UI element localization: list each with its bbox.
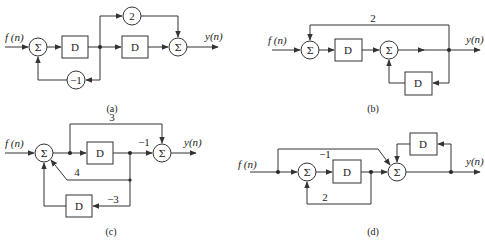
- sigma-symbol: Σ: [306, 45, 313, 56]
- delay-label: D: [131, 41, 139, 53]
- delay-label: D: [75, 200, 83, 212]
- sigma-symbol: Σ: [303, 167, 310, 178]
- connector: [100, 16, 122, 47]
- gain-label: 2: [370, 12, 376, 24]
- gain-label: −1: [138, 136, 150, 148]
- delay-label: D: [71, 41, 79, 53]
- input-label-c: f (n): [5, 137, 24, 150]
- diagram-c: f (n) Σ D −1 Σ y(n) 3 4 −3 D (c): [5, 111, 202, 238]
- output-label-a: y(n): [204, 30, 223, 43]
- gain-label: −1: [319, 148, 331, 160]
- connector: [433, 50, 449, 83]
- input-label-d: f (n): [238, 158, 257, 171]
- connector: [310, 25, 449, 50]
- caption-b: (b): [367, 103, 379, 115]
- connector: [38, 57, 67, 80]
- gain-label: −3: [107, 193, 119, 205]
- sigma-symbol: Σ: [34, 42, 41, 53]
- diagram-d: f (n) Σ D Σ y(n) −1 2 D (d): [238, 133, 484, 238]
- caption-c: (c): [105, 226, 116, 238]
- delay-label: D: [414, 77, 422, 89]
- connector: [389, 60, 405, 83]
- delay-label: D: [343, 166, 351, 178]
- gain-label: 2: [129, 10, 135, 22]
- gain-label: 4: [74, 166, 80, 178]
- connector: [397, 144, 410, 162]
- connector: [141, 16, 178, 37]
- input-label-a: f (n): [5, 31, 24, 44]
- delay-label: D: [96, 147, 104, 159]
- delay-label: D: [419, 138, 427, 150]
- sigma-symbol: Σ: [40, 148, 47, 159]
- gain-label: −1: [70, 74, 82, 86]
- sigma-symbol: Σ: [174, 42, 181, 53]
- connector: [44, 163, 66, 206]
- sigma-symbol: Σ: [393, 167, 400, 178]
- gain-label: 2: [322, 191, 328, 203]
- sigma-symbol: Σ: [158, 148, 165, 159]
- output-label-d: y(n): [465, 155, 484, 168]
- input-label-b: f (n): [268, 34, 287, 47]
- output-label-b: y(n): [465, 33, 484, 46]
- output-label-c: y(n): [183, 136, 202, 149]
- sigma-symbol: Σ: [385, 45, 392, 56]
- connector: [438, 144, 451, 172]
- caption-d: (d): [367, 226, 379, 238]
- delay-label: D: [344, 44, 352, 56]
- diagram-a: f (n) Σ D D Σ y(n) 2 −1 (a): [5, 7, 223, 115]
- gain-label: 3: [109, 111, 115, 123]
- diagram-b: f (n) Σ D Σ y(n) 2 D (b): [268, 12, 484, 115]
